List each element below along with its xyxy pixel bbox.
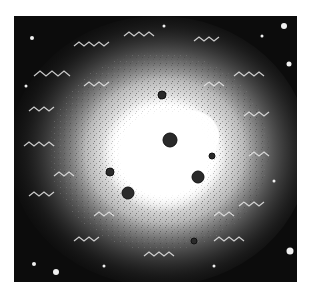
- image-canvas: [0, 0, 312, 293]
- nebula-image: [14, 16, 297, 282]
- nebula-artwork: [14, 16, 297, 282]
